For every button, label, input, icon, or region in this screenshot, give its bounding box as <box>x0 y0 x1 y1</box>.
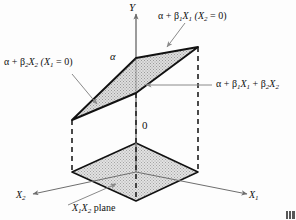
leader-top-right <box>167 23 185 47</box>
x2-axis-label-sub: 2 <box>22 194 26 202</box>
annotation-top-right-paren-close: = 0) <box>208 10 227 21</box>
annotation-top-right-text: α + β <box>158 10 179 21</box>
annotation-bottom: X1X2 plane <box>72 203 115 215</box>
regression-plane-shape <box>72 47 198 120</box>
annotation-top-right: α + β1X1 (X2 = 0) <box>158 11 227 23</box>
regression-plane <box>72 47 198 120</box>
leader-left <box>72 74 97 104</box>
intercept-label: α <box>110 52 116 63</box>
x1-axis-label: X1 <box>249 190 259 202</box>
annotation-top-right-sub2: 1 <box>189 15 193 23</box>
annotation-bottom-suffix: plane <box>91 202 115 213</box>
y-axis-label: Y <box>129 2 135 13</box>
annotation-left-text: α + β <box>4 56 25 67</box>
annotation-left-sub2: 2 <box>35 61 39 69</box>
regression-plane-figure: Y X1 X2 0 α α + β1X1 (X2 = 0) α + β2X2 (… <box>0 0 296 220</box>
annotation-right: α + β1X1 + β2X2 <box>216 79 279 91</box>
x2-axis-label: X2 <box>16 190 26 202</box>
corner-artifact-mark <box>286 211 295 219</box>
annotation-left: α + β2X2 (X1 = 0) <box>4 57 73 69</box>
annotation-left-paren-close: = 0) <box>54 56 73 67</box>
figure-canvas <box>0 0 296 220</box>
annotation-left-paren-open: (X <box>41 56 50 67</box>
annotation-top-right-paren-open: (X <box>195 10 204 21</box>
x1-axis-label-sub: 1 <box>255 194 259 202</box>
origin-label: 0 <box>142 120 148 131</box>
